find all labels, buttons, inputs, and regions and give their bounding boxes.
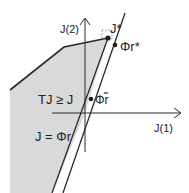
subspace-label: J = Φr	[35, 130, 71, 143]
diagram-canvas: J(2) J(1) J* Φr* Φr̃ TJ ≥ J J = Φr	[0, 0, 189, 193]
phi-r-tilde-point	[89, 97, 94, 102]
region-label: TJ ≥ J	[38, 93, 73, 106]
x-axis-label: J(1)	[154, 123, 173, 134]
phi-r-tilde-label: Φr̃	[95, 94, 109, 106]
feasible-region	[10, 38, 108, 193]
phi-r-star-point	[113, 43, 118, 48]
j-star-point	[105, 35, 110, 40]
j-star-label: J*	[110, 22, 122, 35]
y-axis-label: J(2)	[60, 24, 79, 35]
phi-r-star-label: Φr*	[120, 40, 140, 53]
